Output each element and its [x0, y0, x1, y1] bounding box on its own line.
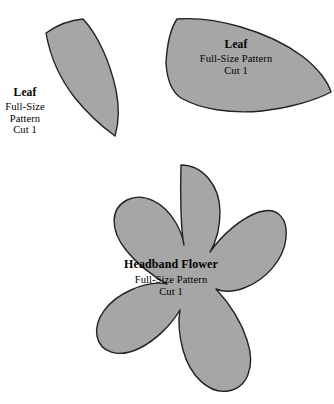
pattern-sheet: Leaf Full-Size Pattern Cut 1 Leaf Full-S…	[0, 0, 334, 404]
leaf-left-label: Leaf Full-Size Pattern Cut 1	[0, 86, 50, 136]
headband-flower-line-1: Full-Size Pattern	[96, 274, 246, 286]
leaf-left-line-1: Full-Size	[0, 101, 50, 113]
leaf-right-label: Leaf Full-Size Pattern Cut 1	[180, 38, 292, 77]
leaf-right-line-1: Full-Size Pattern	[180, 53, 292, 65]
leaf-left-line-2: Pattern	[0, 113, 50, 125]
headband-flower-line-2: Cut 1	[96, 286, 246, 298]
headband-flower-title: Headband Flower	[96, 258, 246, 271]
leaf-left-line-3: Cut 1	[0, 124, 50, 136]
leaf-left-shape	[46, 19, 118, 136]
headband-flower-label: Headband Flower Full-Size Pattern Cut 1	[96, 258, 246, 298]
leaf-left-title: Leaf	[0, 86, 50, 99]
leaf-right-line-2: Cut 1	[180, 65, 292, 77]
leaf-right-title: Leaf	[180, 38, 292, 51]
